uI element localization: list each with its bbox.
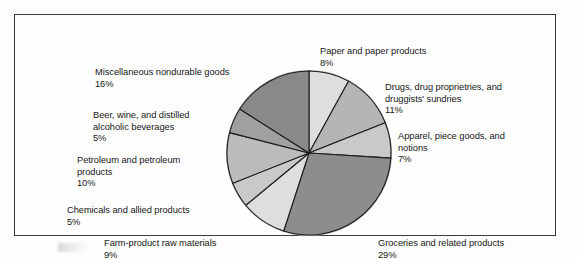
slice-value-text: 9% xyxy=(104,250,216,259)
slice-label-miscellaneous-nondurable-goods: Miscellaneous nondurable goods 16% xyxy=(95,56,229,102)
slice-label-text: Miscellaneous nondurable goods xyxy=(95,67,229,77)
figure-page: Paper and paper products 8% Drugs, drug … xyxy=(0,0,578,259)
slice-label-apparel-piece-goods-notions: Apparel, piece goods, and notions 7% xyxy=(398,120,505,177)
slice-label-text: Drugs, drug proprietries, and druggists'… xyxy=(385,82,502,103)
slice-label-text: Apparel, piece goods, and notions xyxy=(398,131,505,152)
slice-label-text: Beer, wine, and distilled alcoholic beve… xyxy=(93,110,189,131)
slice-value-text: 29% xyxy=(378,250,504,259)
slice-value-text: 11% xyxy=(385,105,502,116)
slice-label-text: Petroleum and petroleum products xyxy=(77,155,180,176)
pie-chart-svg xyxy=(221,65,393,237)
slice-value-text: 7% xyxy=(398,154,505,165)
pie-chart xyxy=(221,65,393,237)
slice-label-text: Paper and paper products xyxy=(320,46,426,56)
slice-label-beer-wine-distilled-alcoholic-beverages: Beer, wine, and distilled alcoholic beve… xyxy=(93,99,189,156)
slice-value-text: 16% xyxy=(95,79,229,90)
slice-label-groceries-and-related-products: Groceries and related products 29% xyxy=(378,227,504,259)
slice-value-text: 10% xyxy=(77,178,180,189)
slice-label-text: Groceries and related products xyxy=(378,238,504,248)
slice-value-text: 5% xyxy=(67,217,190,228)
slice-value-text: 5% xyxy=(93,133,189,144)
slice-label-text: Farm-product raw materials xyxy=(104,238,216,248)
pie-slice-group xyxy=(227,71,391,235)
slice-label-text: Chemicals and allied products xyxy=(67,205,190,215)
slice-value-text: 8% xyxy=(320,58,426,69)
figure-frame: Paper and paper products 8% Drugs, drug … xyxy=(14,14,556,236)
scan-artifact xyxy=(58,243,92,252)
